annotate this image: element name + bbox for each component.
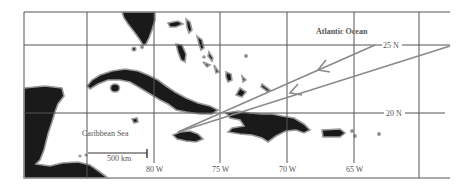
lon-label-65w: 65 W xyxy=(346,165,364,174)
bahamas xyxy=(168,19,270,97)
lat-label-25n: 25 N xyxy=(383,41,399,50)
lon-label-80w: 80 W xyxy=(146,165,164,174)
lower-track xyxy=(178,46,450,132)
puerto-rico xyxy=(322,129,345,137)
lon-label-70w: 70 W xyxy=(279,165,297,174)
lon-label-75w: 75 W xyxy=(212,165,230,174)
land-masses xyxy=(24,12,380,178)
jamaica xyxy=(173,131,203,142)
lat-label-20n: 20 N xyxy=(386,109,402,118)
storm-tracks xyxy=(178,45,450,132)
caribbean-map: 500 km Atlantic Ocean Caribbean Sea 25 N… xyxy=(0,0,474,190)
florida xyxy=(122,12,155,45)
scale-label: 500 km xyxy=(107,154,132,163)
cuba xyxy=(87,69,218,114)
caribbean-sea-label: Caribbean Sea xyxy=(82,129,129,138)
atlantic-ocean-label: Atlantic Ocean xyxy=(316,27,368,36)
hispaniola xyxy=(226,111,310,142)
scale-bar: 500 km xyxy=(88,149,147,163)
